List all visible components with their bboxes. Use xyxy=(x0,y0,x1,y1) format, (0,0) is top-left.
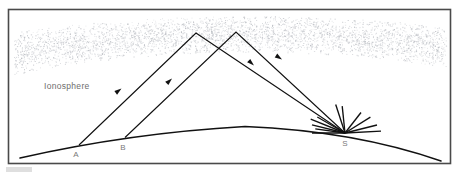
point-label-s: S xyxy=(342,139,348,148)
figure-container: Ionosphere A B S xyxy=(0,0,460,173)
propagation-diagram: Ionosphere A B S xyxy=(0,0,460,173)
point-label-b: B xyxy=(120,143,126,152)
ionosphere-label: Ionosphere xyxy=(44,81,90,91)
caption-smudge xyxy=(6,167,32,172)
point-label-a: A xyxy=(73,150,79,159)
